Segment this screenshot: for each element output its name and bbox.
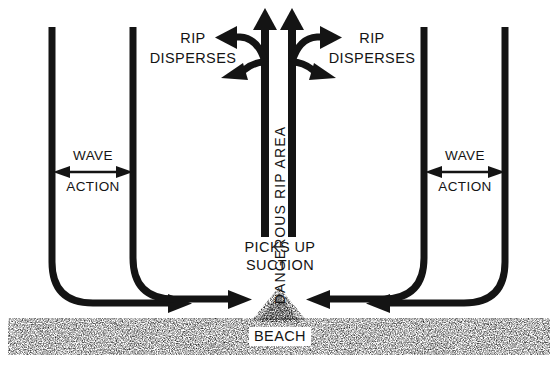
rip-disperses-right-line2: DISPERSES [329, 50, 416, 66]
rip-disperses-left-line2: DISPERSES [150, 50, 237, 66]
dangerous-rip-area-label: DANGEROUS RIP AREA [272, 126, 288, 304]
picks-up-line1: PICKS UP [245, 239, 316, 255]
wave-action-right-line2: ACTION [438, 179, 491, 194]
wave-action-right-line1: WAVE [445, 148, 485, 163]
wave-action-left-line1: WAVE [73, 148, 113, 163]
rip-disperses-left-line1: RIP [180, 30, 205, 46]
rip-current-diagram: BEACH DANGEROUS RIP ARE [0, 0, 558, 374]
beach-label-group: BEACH [249, 327, 311, 346]
wave-action-left-line2: ACTION [66, 179, 119, 194]
beach-label: BEACH [254, 328, 306, 344]
diagram-canvas: BEACH DANGEROUS RIP ARE [0, 0, 558, 374]
picks-up-line2: SUCTION [246, 257, 314, 273]
rip-disperses-right-line1: RIP [359, 30, 384, 46]
